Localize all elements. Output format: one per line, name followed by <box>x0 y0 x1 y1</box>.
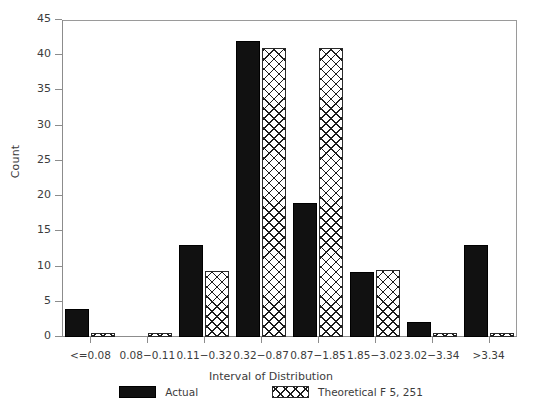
bar-theoretical <box>91 333 115 337</box>
x-tick <box>261 337 262 343</box>
y-tick: 20 <box>55 195 62 196</box>
x-tick-label: 0.08−0.11 <box>120 349 176 361</box>
x-tick-label: >3.34 <box>472 349 504 361</box>
x-tick-label: 0.32−0.87 <box>233 349 289 361</box>
bar-theoretical <box>490 333 514 337</box>
y-axis-title: Count <box>9 127 22 197</box>
bar-theoretical <box>205 271 229 337</box>
y-tick: 40 <box>55 54 62 55</box>
y-tick-label: 45 <box>37 12 51 25</box>
x-tick <box>432 337 433 343</box>
bar-actual <box>236 41 260 337</box>
y-tick-label: 25 <box>37 153 51 166</box>
x-tick <box>147 337 148 343</box>
y-tick-label: 40 <box>37 47 51 60</box>
legend-label-actual: Actual <box>165 386 198 398</box>
x-tick-label: 3.02−3.34 <box>404 349 460 361</box>
legend-entry-theoretical: Theoretical F 5, 251 <box>272 386 423 398</box>
bar-actual <box>350 272 374 337</box>
bar-theoretical <box>433 333 457 337</box>
x-tick-label: 0.87−1.85 <box>290 349 346 361</box>
axis-top-spine <box>62 20 517 21</box>
bar-theoretical <box>376 270 400 337</box>
y-tick-label: 10 <box>37 259 51 272</box>
y-tick-label: 30 <box>37 118 51 131</box>
plot-area: 051015202530354045 <=0.080.08−0.110.11−0… <box>62 20 517 337</box>
y-tick: 30 <box>55 125 62 126</box>
y-tick: 45 <box>55 19 62 20</box>
y-tick-label: 20 <box>37 188 51 201</box>
legend-label-theoretical: Theoretical F 5, 251 <box>318 386 423 398</box>
chart-legend: Actual Theoretical F 5, 251 <box>0 386 542 398</box>
y-tick: 25 <box>55 160 62 161</box>
bar-actual <box>464 245 488 337</box>
y-tick-label: 35 <box>37 82 51 95</box>
legend-entry-actual: Actual <box>119 386 198 398</box>
bar-actual <box>293 203 317 337</box>
x-tick <box>489 337 490 343</box>
y-tick-label: 0 <box>44 329 51 342</box>
x-tick-label: <=0.08 <box>70 349 111 361</box>
y-tick: 15 <box>55 230 62 231</box>
x-tick-label: 1.85−3.02 <box>347 349 403 361</box>
bar-actual <box>65 309 89 337</box>
x-tick <box>204 337 205 343</box>
y-tick-label: 15 <box>37 223 51 236</box>
x-tick-label: 0.11−0.32 <box>176 349 232 361</box>
crosshatch-swatch <box>272 386 309 398</box>
bar-actual <box>407 322 431 337</box>
x-tick <box>90 337 91 343</box>
bar-theoretical <box>148 333 172 337</box>
solid-black-swatch <box>119 386 156 398</box>
x-axis-title: Interval of Distribution <box>0 370 542 383</box>
x-tick <box>318 337 319 343</box>
axis-left-spine <box>62 20 63 337</box>
y-tick: 5 <box>55 301 62 302</box>
y-tick: 10 <box>55 266 62 267</box>
y-tick: 0 <box>55 336 62 337</box>
bar-actual <box>179 245 203 337</box>
bar-theoretical <box>319 48 343 337</box>
y-tick-label: 5 <box>44 294 51 307</box>
axis-right-spine <box>516 20 517 337</box>
y-tick: 35 <box>55 89 62 90</box>
bar-theoretical <box>262 48 286 337</box>
chart-figure: Count 051015202530354045 <=0.080.08−0.11… <box>0 0 542 414</box>
x-tick <box>375 337 376 343</box>
figure-caption <box>0 406 542 414</box>
